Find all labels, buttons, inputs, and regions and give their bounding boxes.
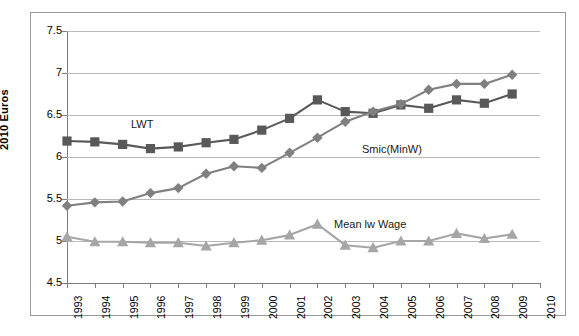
data-point-square <box>285 114 294 123</box>
data-point-diamond <box>340 117 350 127</box>
data-point-diamond <box>507 69 517 79</box>
data-point-square <box>341 107 350 116</box>
data-point-triangle <box>507 229 518 239</box>
data-series-layer <box>0 0 579 336</box>
data-point-diamond <box>284 148 294 158</box>
data-point-square <box>424 104 433 113</box>
data-point-square <box>257 126 266 135</box>
data-point-diamond <box>257 163 267 173</box>
data-point-square <box>202 138 211 147</box>
data-point-diamond <box>117 196 127 206</box>
data-point-triangle <box>451 228 462 238</box>
data-point-square <box>229 135 238 144</box>
data-point-square <box>90 137 99 146</box>
data-point-diamond <box>62 201 72 211</box>
data-point-square <box>313 95 322 104</box>
data-point-square <box>508 89 517 98</box>
data-point-diamond <box>229 161 239 171</box>
chart-figure: 2010 Euros 7.576.565.554.5 1993199419951… <box>0 0 579 336</box>
data-point-diamond <box>145 188 155 198</box>
data-point-diamond <box>173 183 183 193</box>
data-point-square <box>174 142 183 151</box>
data-point-diamond <box>424 85 434 95</box>
data-point-diamond <box>451 79 461 89</box>
data-point-square <box>146 144 155 153</box>
series-label-smic: Smic(MinW) <box>362 143 422 155</box>
data-point-square <box>118 140 127 149</box>
series-smic <box>62 69 518 210</box>
series-line <box>67 75 512 206</box>
data-point-diamond <box>90 197 100 207</box>
series-label-lwt: LWT <box>131 118 153 130</box>
data-point-triangle <box>312 219 323 229</box>
series-mean <box>61 219 517 253</box>
series-label-mean: Mean lw Wage <box>334 218 406 230</box>
data-point-diamond <box>479 79 489 89</box>
data-point-square <box>62 136 71 145</box>
data-point-square <box>452 95 461 104</box>
data-point-square <box>480 99 489 108</box>
data-point-diamond <box>201 169 211 179</box>
data-point-diamond <box>312 132 322 142</box>
data-point-triangle <box>61 231 72 241</box>
